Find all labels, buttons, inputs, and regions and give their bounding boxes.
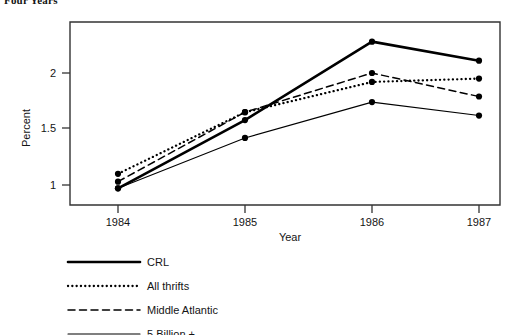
data-point bbox=[242, 135, 248, 141]
y-tick-label-1-5: 1.5 bbox=[41, 122, 56, 134]
data-point bbox=[115, 185, 121, 191]
data-point bbox=[369, 39, 375, 45]
series-line bbox=[118, 73, 479, 182]
x-axis-title: Year bbox=[279, 231, 302, 243]
y-tick-label-2: 2 bbox=[50, 67, 56, 79]
y-axis-title: Percent bbox=[20, 109, 32, 147]
data-point bbox=[476, 112, 482, 118]
series-line bbox=[118, 102, 479, 188]
chart-legend: CRLAll thriftsMiddle Atlantic5 Billion + bbox=[68, 256, 218, 335]
data-point bbox=[242, 117, 248, 123]
data-point bbox=[242, 109, 248, 115]
x-axis-ticks bbox=[118, 205, 479, 213]
x-tick-label-1985: 1985 bbox=[233, 216, 257, 228]
y-axis-ticks bbox=[62, 73, 70, 185]
legend-label: CRL bbox=[147, 256, 169, 268]
data-point bbox=[115, 179, 121, 185]
data-point bbox=[476, 76, 482, 82]
legend-item-5-billion[interactable]: 5 Billion + bbox=[68, 328, 195, 335]
line-chart-plot: 2 1.5 1 Percent 1984 1985 1986 1987 Year… bbox=[0, 0, 522, 335]
plot-frame bbox=[70, 22, 500, 205]
legend-label: All thrifts bbox=[147, 280, 190, 292]
x-tick-label-1987: 1987 bbox=[467, 216, 491, 228]
data-point bbox=[115, 171, 121, 177]
legend-item-middle-atlantic[interactable]: Middle Atlantic bbox=[68, 304, 218, 316]
data-point bbox=[476, 58, 482, 64]
chart-figure: Four Years 2 1.5 1 Percent 1984 1985 198… bbox=[0, 0, 522, 335]
legend-item-crl[interactable]: CRL bbox=[68, 256, 169, 268]
x-tick-label-1986: 1986 bbox=[360, 216, 384, 228]
data-point bbox=[369, 79, 375, 85]
legend-label: 5 Billion + bbox=[147, 328, 195, 335]
data-point bbox=[476, 93, 482, 99]
series-layer bbox=[115, 39, 482, 192]
data-point bbox=[369, 99, 375, 105]
series-5-billion bbox=[115, 99, 482, 191]
x-tick-label-1984: 1984 bbox=[106, 216, 130, 228]
legend-label: Middle Atlantic bbox=[147, 304, 218, 316]
series-crl bbox=[115, 39, 482, 192]
y-tick-label-1: 1 bbox=[50, 179, 56, 191]
data-point bbox=[369, 70, 375, 76]
legend-item-all-thrifts[interactable]: All thrifts bbox=[68, 280, 190, 292]
